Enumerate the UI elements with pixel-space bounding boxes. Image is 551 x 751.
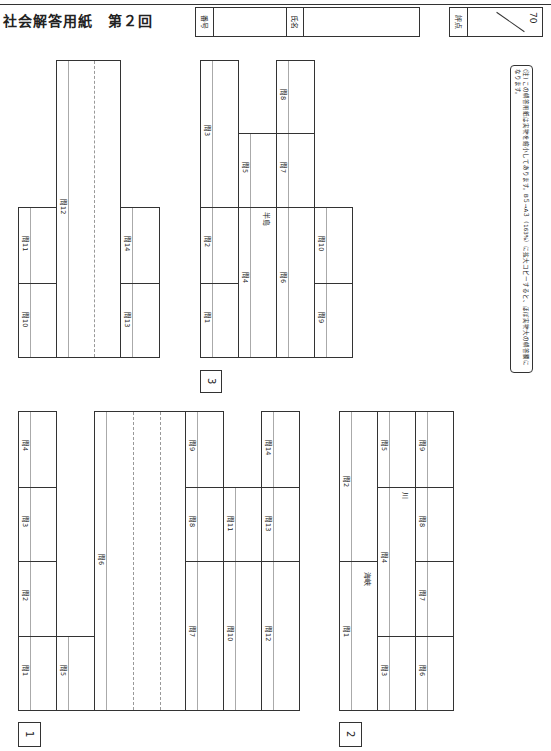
- question-label: 問14: [121, 236, 132, 251]
- s3-q8-cell[interactable]: 問8: [276, 60, 315, 134]
- s1-q4-cell[interactable]: 問4: [18, 411, 57, 488]
- question-label: 問10: [224, 626, 235, 641]
- score-max: 70: [528, 12, 538, 23]
- question-label: 問5: [239, 162, 250, 173]
- score-slash: [496, 12, 524, 32]
- question-label: 問4: [239, 272, 250, 283]
- s1-q14-lower-cell[interactable]: 問14: [261, 411, 300, 488]
- s2-q4-cell[interactable]: 問4川: [377, 487, 416, 637]
- question-label: 問7: [277, 162, 288, 173]
- question-label: 問2: [340, 476, 351, 487]
- score-label: 評点: [450, 8, 468, 36]
- question-label: 問13: [121, 312, 132, 327]
- question-label: 問14: [262, 440, 273, 455]
- s1-q13-cell[interactable]: 問13: [120, 283, 160, 358]
- s1-q5-cell[interactable]: 問5: [56, 636, 95, 711]
- s1-q12-lower-cell[interactable]: 問12: [261, 561, 300, 711]
- question-label: 問12: [262, 626, 273, 641]
- question-label: 問4: [378, 552, 389, 563]
- s2-q6-cell[interactable]: 問6: [415, 636, 454, 711]
- s1-q14-cell[interactable]: 問14: [120, 207, 160, 284]
- question-label: 問2: [19, 590, 30, 601]
- s3-q10-cell[interactable]: 問10: [314, 207, 353, 284]
- strait-suffix: 海峡: [363, 572, 373, 586]
- question-label: 問5: [378, 440, 389, 451]
- question-label: 問6: [277, 272, 288, 283]
- question-label: 問10: [315, 236, 326, 251]
- s2-q2-cell[interactable]: 問2: [339, 411, 378, 562]
- s2-q8-cell[interactable]: 問8: [415, 487, 454, 562]
- question-label: 問11: [19, 236, 30, 251]
- s2-q5-cell[interactable]: 問5: [377, 411, 416, 488]
- question-label: 問3: [378, 665, 389, 676]
- s1-q6-cell[interactable]: 問6: [94, 411, 186, 711]
- student-info-box: 番号 氏名: [195, 7, 420, 37]
- question-label: 問6: [416, 665, 427, 676]
- s1-q9-cell[interactable]: 問9: [185, 411, 224, 488]
- question-label: 問3: [19, 516, 30, 527]
- question-label: 問2: [201, 236, 212, 247]
- question-label: 問11: [224, 516, 235, 531]
- question-label: 問7: [186, 626, 197, 637]
- s1-q12-cell[interactable]: 問12: [56, 60, 121, 358]
- number-field[interactable]: [214, 8, 286, 36]
- s1-q2-cell[interactable]: 問2: [18, 561, 57, 637]
- question-label: 問13: [262, 516, 273, 531]
- question-label: 問5: [57, 665, 68, 676]
- page-title: 社会解答用紙 第２回: [3, 10, 153, 30]
- s3-q7-cell[interactable]: 問7: [276, 133, 315, 208]
- name-label: 氏名: [286, 8, 304, 36]
- s3-q3-cell[interactable]: 問3: [200, 60, 239, 208]
- s1-q11-cell[interactable]: 問11: [18, 207, 57, 284]
- s1-q8-cell[interactable]: 問8: [185, 487, 224, 562]
- question-label: 問9: [315, 312, 326, 323]
- name-field[interactable]: [304, 8, 419, 36]
- peninsula-suffix: 半島: [262, 212, 272, 226]
- question-label: 問1: [201, 312, 212, 323]
- question-label: 問9: [416, 440, 427, 451]
- question-label: 問6: [95, 554, 106, 565]
- s3-q6-cell[interactable]: 問6: [276, 207, 315, 358]
- question-label: 問1: [340, 626, 351, 637]
- question-label: 問12: [57, 199, 68, 214]
- number-label: 番号: [196, 8, 214, 36]
- s1-q7-cell[interactable]: 問7: [185, 561, 224, 711]
- s3-q4-cell[interactable]: 問4半島: [238, 207, 277, 358]
- note-box: (注) この解答用紙は実物を縮小してあります。B５→A３（163%）に拡大コピー…: [510, 65, 533, 373]
- section-3-marker: 3: [200, 370, 222, 393]
- section-2-marker: 2: [339, 722, 362, 747]
- question-label: 問7: [416, 590, 427, 601]
- s3-q1-cell[interactable]: 問1: [200, 283, 239, 358]
- score-box: 評点 70: [449, 7, 543, 37]
- s3-q9-cell[interactable]: 問9: [314, 283, 353, 358]
- river-suffix: 川: [401, 492, 411, 499]
- question-label: 問1: [19, 665, 30, 676]
- question-label: 問3: [201, 125, 212, 136]
- question-label: 問8: [416, 516, 427, 527]
- s3-q5-cell[interactable]: 問5: [238, 133, 277, 208]
- s3-q2-cell[interactable]: 問2: [200, 207, 239, 284]
- s1-q11-lower-cell[interactable]: 問11: [223, 487, 262, 562]
- s1-q10-lower-cell[interactable]: 問10: [223, 561, 262, 711]
- question-label: 問10: [19, 312, 30, 327]
- section-1-marker: 1: [18, 722, 41, 747]
- s2-q7-cell[interactable]: 問7: [415, 561, 454, 637]
- s1-q3-cell[interactable]: 問3: [18, 487, 57, 562]
- header-rule: [0, 4, 551, 5]
- s1-q1-cell[interactable]: 問1: [18, 636, 57, 711]
- question-label: 問8: [186, 516, 197, 527]
- s2-q9-cell[interactable]: 問9: [415, 411, 454, 488]
- s1-q10-cell[interactable]: 問10: [18, 283, 57, 358]
- question-label: 問9: [186, 440, 197, 451]
- s2-q1-cell[interactable]: 問1海峡: [339, 561, 378, 711]
- s1-q13-lower-cell[interactable]: 問13: [261, 487, 300, 562]
- s2-q3-cell[interactable]: 問3: [377, 636, 416, 711]
- question-label: 問4: [19, 440, 30, 451]
- question-label: 問8: [277, 89, 288, 100]
